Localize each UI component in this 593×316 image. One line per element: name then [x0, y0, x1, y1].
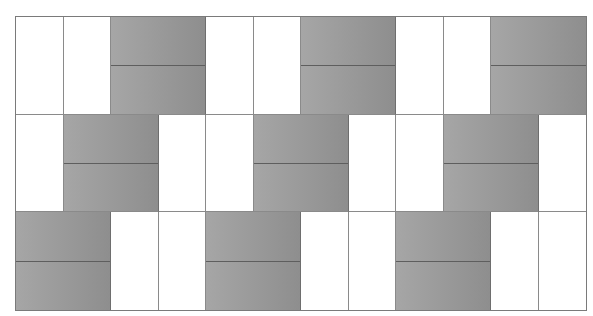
tile-split-line: [206, 261, 300, 262]
white-tile: [16, 115, 64, 213]
white-tile: [206, 17, 254, 115]
gray-split-tile: [254, 115, 349, 213]
white-tile: [349, 115, 397, 213]
white-tile: [159, 212, 207, 310]
pattern-row: [16, 17, 586, 115]
tile-split-line: [301, 65, 395, 66]
white-tile: [16, 17, 64, 115]
tiling-pattern-grid: [15, 16, 587, 311]
white-tile: [159, 115, 207, 213]
white-tile: [444, 17, 492, 115]
gray-split-tile: [206, 212, 301, 310]
gray-split-tile: [16, 212, 111, 310]
tile-split-line: [444, 163, 538, 164]
white-tile: [539, 115, 587, 213]
white-tile: [111, 212, 159, 310]
white-tile: [349, 212, 397, 310]
white-tile: [254, 17, 302, 115]
tile-split-line: [491, 65, 586, 66]
tile-split-line: [396, 261, 490, 262]
white-tile: [491, 212, 539, 310]
pattern-row: [16, 115, 586, 213]
tile-split-line: [111, 65, 205, 66]
white-tile: [396, 17, 444, 115]
white-tile: [301, 212, 349, 310]
white-tile: [396, 115, 444, 213]
white-tile: [206, 115, 254, 213]
gray-split-tile: [444, 115, 539, 213]
white-tile: [64, 17, 112, 115]
gray-split-tile: [301, 17, 396, 115]
tile-split-line: [16, 261, 110, 262]
gray-split-tile: [396, 212, 491, 310]
pattern-row: [16, 212, 586, 310]
gray-split-tile: [111, 17, 206, 115]
tile-split-line: [64, 163, 158, 164]
tile-split-line: [254, 163, 348, 164]
white-tile: [539, 212, 587, 310]
gray-split-tile: [64, 115, 159, 213]
gray-split-tile: [491, 17, 586, 115]
